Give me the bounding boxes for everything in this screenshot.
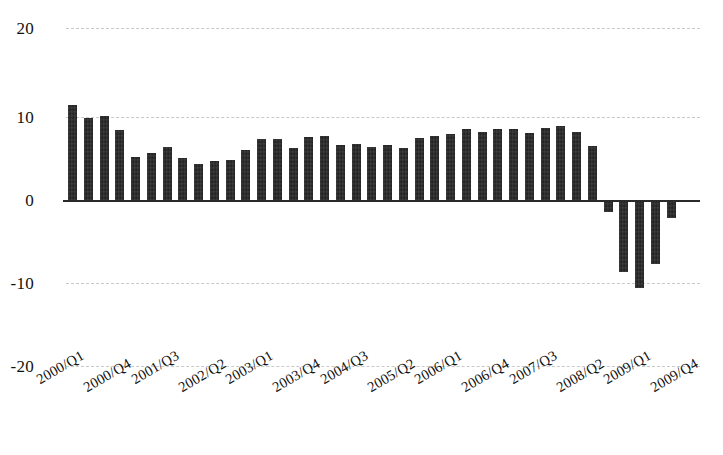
bar-chart: 20 10 0 -10 -20 2000/Q12000/Q42001/Q3200… [0,0,723,455]
bar [336,145,345,200]
bar [226,160,235,200]
y-tick-label-neg10: -10 [0,275,34,292]
bar [556,126,565,200]
x-tick-label: 2009/Q4 [648,356,701,395]
bar [509,129,518,200]
bar [462,129,471,200]
x-tick-label: 2003/Q4 [270,356,323,395]
bar [493,129,502,200]
bar [588,146,597,200]
bar [289,148,298,200]
x-tick-label: 2002/Q2 [176,356,229,395]
x-tick-label: 2000/Q1 [34,348,87,387]
bar [446,134,455,200]
bar [68,105,77,200]
bar [415,138,424,200]
x-tick-label: 2005/Q2 [365,356,418,395]
bar [100,116,109,200]
bar [367,147,376,200]
bar [651,200,660,264]
bar [273,139,282,200]
bar [399,148,408,200]
bar [257,139,266,200]
bar [320,136,329,200]
x-tick-label: 2000/Q4 [81,356,134,395]
bar [131,157,140,200]
bar [163,147,172,200]
y-tick-label-10: 10 [0,109,34,126]
bar [194,164,203,200]
zero-axis-line [63,200,700,202]
bar [178,158,187,200]
bar [635,200,644,288]
bar [430,136,439,200]
bar [667,200,676,218]
bar [383,145,392,200]
bar [619,200,628,272]
y-tick-label-neg20: -20 [0,358,34,375]
bar [572,132,581,200]
bar [84,118,93,200]
bar [147,153,156,200]
bar [478,132,487,200]
plot-area: 20 10 0 -10 -20 [66,28,700,360]
bar [541,128,550,200]
bar [352,144,361,200]
bar [210,161,219,200]
bar [304,137,313,200]
bar [241,150,250,200]
x-axis-labels: 2000/Q12000/Q42001/Q32002/Q22003/Q12003/… [66,360,700,455]
y-tick-label-0: 0 [0,192,34,209]
y-tick-label-20: 20 [0,20,34,37]
bar [525,133,534,200]
bars-layer [66,28,700,360]
bar [115,130,124,200]
x-tick-label: 2008/Q2 [554,356,607,395]
x-tick-label: 2006/Q4 [459,356,512,395]
